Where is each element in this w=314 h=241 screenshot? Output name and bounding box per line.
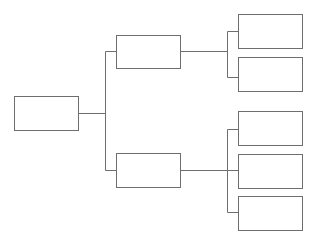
leaf-node-2-1 xyxy=(238,111,303,146)
root-node-label xyxy=(15,97,78,130)
branch-node-1 xyxy=(116,35,181,69)
leaf-node-1-2 xyxy=(238,57,303,92)
root-node xyxy=(14,96,79,131)
leaf-node-2-1-label xyxy=(239,112,302,145)
branch-node-2-label xyxy=(117,154,180,187)
leaf-node-1-2-label xyxy=(239,58,302,91)
leaf-node-2-2 xyxy=(238,154,303,189)
leaf-node-2-3-label xyxy=(239,197,302,230)
branch-node-1-label xyxy=(117,36,180,68)
branch-node-2 xyxy=(116,153,181,188)
leaf-node-1-1 xyxy=(238,14,303,49)
leaf-node-1-1-label xyxy=(239,15,302,48)
leaf-node-2-3 xyxy=(238,196,303,231)
leaf-node-2-2-label xyxy=(239,155,302,188)
